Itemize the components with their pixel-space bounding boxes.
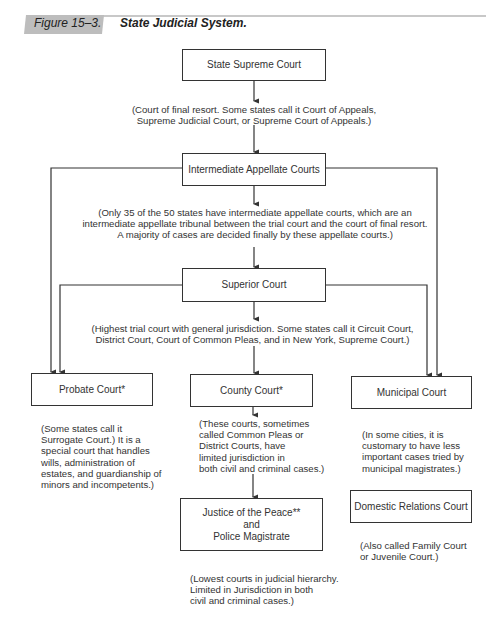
node-label: Probate Court* <box>59 384 125 396</box>
node-label: Domestic Relations Court <box>354 501 467 513</box>
node-label-line: Police Magistrate <box>213 531 290 543</box>
note-line: District Courts, have <box>199 440 329 451</box>
note-county-court: (These courts, sometimes called Common P… <box>199 418 329 474</box>
note-line: civil and criminal cases.) <box>190 595 350 606</box>
note-state-supreme-court: (Court of final resort. Some states call… <box>80 104 428 126</box>
note-line: municipal magistrates.) <box>362 463 487 474</box>
note-line: A majority of cases are decided finally … <box>70 229 440 240</box>
note-line: (Some states call it <box>41 423 171 434</box>
node-label-line: Justice of the Peace** <box>203 507 301 519</box>
node-superior-court: Superior Court <box>182 268 326 302</box>
note-line: (In some cities, it is <box>362 429 487 440</box>
node-label: Superior Court <box>221 279 286 291</box>
note-line: Surrogate Court.) It is a <box>41 434 171 445</box>
node-domestic-relations-court: Domestic Relations Court <box>350 490 472 523</box>
note-line: (These courts, sometimes <box>199 418 329 429</box>
node-municipal-court: Municipal Court <box>351 376 472 409</box>
note-line: (Highest trial court with general jurisd… <box>80 323 425 334</box>
node-label: State Supreme Court <box>207 59 301 71</box>
note-superior-court: (Highest trial court with general jurisd… <box>80 323 425 345</box>
note-justice-of-the-peace: (Lowest courts in judicial hierarchy. Li… <box>190 573 350 607</box>
note-line: (Lowest courts in judicial hierarchy. <box>190 573 350 584</box>
node-label-line: and <box>243 519 260 531</box>
note-line: or Juvenile Court.) <box>360 551 485 562</box>
node-label: Intermediate Appellate Courts <box>188 164 320 176</box>
node-county-court: County Court* <box>190 374 313 407</box>
note-line: customary to have less <box>362 440 487 451</box>
note-line: important cases tried by <box>362 451 487 462</box>
node-label: Municipal Court <box>377 387 446 399</box>
node-justice-of-the-peace: Justice of the Peace** and Police Magist… <box>180 498 323 551</box>
note-domestic-relations-court: (Also called Family Court or Juvenile Co… <box>360 540 485 562</box>
note-line: limited jurisdiction in <box>199 452 329 463</box>
note-line: (Only 35 of the 50 states have intermedi… <box>70 207 440 218</box>
note-line: intermediate appellate tribunal between … <box>70 218 440 229</box>
node-state-supreme-court: State Supreme Court <box>182 49 326 81</box>
node-probate-court: Probate Court* <box>31 373 153 406</box>
node-intermediate-appellate-courts: Intermediate Appellate Courts <box>182 153 326 186</box>
note-municipal-court: (In some cities, it is customary to have… <box>362 429 487 474</box>
note-line: minors and incompetents.) <box>41 479 171 490</box>
note-line: Supreme Judicial Court, or Supreme Court… <box>80 115 428 126</box>
note-line: estates, and guardianship of <box>41 468 171 479</box>
note-line: District Court, Court of Common Pleas, a… <box>80 334 425 345</box>
note-line: Limited in Jurisdiction in both <box>190 584 350 595</box>
note-line: (Also called Family Court <box>360 540 485 551</box>
node-label: County Court* <box>220 385 283 397</box>
note-line: called Common Pleas or <box>199 429 329 440</box>
note-line: both civil and criminal cases.) <box>199 463 329 474</box>
note-line: (Court of final resort. Some states call… <box>80 104 428 115</box>
note-probate-court: (Some states call it Surrogate Court.) I… <box>41 423 171 490</box>
note-line: wills, administration of <box>41 457 171 468</box>
note-line: special court that handles <box>41 445 171 456</box>
note-intermediate-appellate-courts: (Only 35 of the 50 states have intermedi… <box>70 207 440 241</box>
